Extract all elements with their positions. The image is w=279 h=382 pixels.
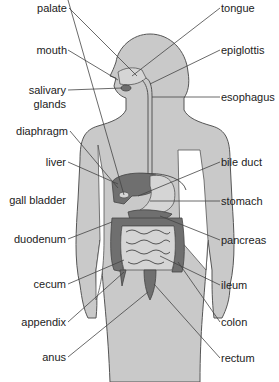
label-liver: liver bbox=[20, 156, 66, 168]
label-duodenum: duodenum bbox=[2, 233, 66, 245]
label-salivary-line2: glands bbox=[10, 98, 66, 110]
label-rectum: rectum bbox=[221, 352, 255, 364]
label-ileum: ileum bbox=[221, 279, 247, 291]
label-epiglottis: epiglottis bbox=[221, 44, 264, 56]
label-bile-duct: bile duct bbox=[221, 156, 262, 168]
label-colon: colon bbox=[221, 316, 247, 328]
label-anus: anus bbox=[10, 351, 66, 363]
label-mouth: mouth bbox=[20, 44, 67, 56]
label-pancreas: pancreas bbox=[221, 234, 266, 246]
label-stomach: stomach bbox=[221, 195, 263, 207]
label-tongue: tongue bbox=[221, 2, 255, 14]
digestive-system-diagram: palate mouth salivary glands diaphragm l… bbox=[0, 0, 279, 382]
label-esophagus: esophagus bbox=[221, 91, 275, 103]
salivary-gland-shape bbox=[121, 85, 131, 91]
label-diaphragm: diaphragm bbox=[4, 125, 68, 137]
label-gall-bladder: gall bladder bbox=[2, 194, 66, 206]
label-palate: palate bbox=[30, 2, 67, 14]
label-appendix: appendix bbox=[4, 316, 66, 328]
label-cecum: cecum bbox=[10, 278, 66, 290]
label-salivary-line1: salivary bbox=[10, 84, 66, 96]
